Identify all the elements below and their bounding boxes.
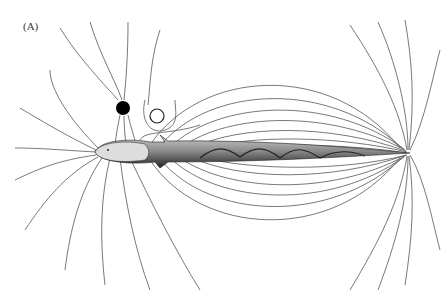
field-diagram [0,0,443,300]
figure: (A) [0,0,443,300]
insulating-object [150,109,164,123]
conductive-object [116,101,130,115]
